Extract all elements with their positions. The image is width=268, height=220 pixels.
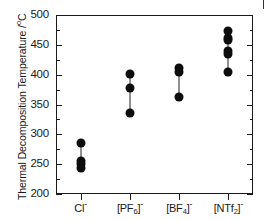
y-tick-right-250 xyxy=(247,164,253,165)
y-tick-minor-225 xyxy=(56,179,60,180)
y-tick-label-400: 400 xyxy=(30,68,49,80)
y-tick-right-350 xyxy=(247,105,253,106)
y-tick-label-300: 300 xyxy=(30,127,49,139)
y-tick-minor-475 xyxy=(56,30,60,31)
x-label-base-2: [BF xyxy=(166,202,183,214)
y-tick-200 xyxy=(56,194,62,195)
y-tick-label-450: 450 xyxy=(30,38,49,50)
data-point xyxy=(175,68,184,77)
x-label-charge-2: - xyxy=(189,199,192,209)
y-tick-500 xyxy=(56,15,62,16)
degree-symbol: o xyxy=(14,21,23,25)
y-tick-label-200: 200 xyxy=(30,187,49,199)
y-axis-unit-c: C xyxy=(16,14,28,21)
data-point xyxy=(175,93,184,102)
x-tick-label-2: [BF4]- xyxy=(166,199,192,214)
x-label-charge-0: - xyxy=(84,199,87,209)
y-tick-400 xyxy=(56,75,62,76)
y-tick-label-500: 500 xyxy=(30,8,49,20)
series-range-line-[PF6] xyxy=(129,74,130,113)
data-point xyxy=(224,67,233,76)
y-tick-right-minor-225 xyxy=(250,179,254,180)
y-axis-title: Thermal Decomposition Temperature /oC xyxy=(14,12,28,202)
y-tick-minor-425 xyxy=(56,60,60,61)
y-tick-right-minor-325 xyxy=(250,119,254,120)
page-edge-mark xyxy=(263,0,264,9)
x-tick-label-0: Cl- xyxy=(74,199,87,214)
y-tick-minor-325 xyxy=(56,119,60,120)
y-tick-right-minor-375 xyxy=(250,90,254,91)
x-tick-label-3: [NTf2]- xyxy=(214,199,243,214)
y-tick-300 xyxy=(56,134,62,135)
data-point xyxy=(224,36,233,45)
x-label-subscript-2: 4 xyxy=(183,207,187,216)
chart-figure: Thermal Decomposition Temperature /oC 20… xyxy=(0,0,268,220)
x-label-base-3: [NTf xyxy=(214,202,234,214)
y-axis-title-text: Thermal Decomposition Temperature / xyxy=(16,25,28,200)
y-tick-label-250: 250 xyxy=(30,157,49,169)
x-label-charge-3: - xyxy=(240,199,243,209)
x-label-charge-1: - xyxy=(140,199,143,209)
y-tick-450 xyxy=(56,45,62,46)
data-point xyxy=(76,139,85,148)
x-label-subscript-1: 6 xyxy=(133,207,137,216)
y-tick-label-350: 350 xyxy=(30,98,49,110)
data-point xyxy=(125,109,134,118)
y-tick-right-300 xyxy=(247,134,253,135)
y-tick-minor-275 xyxy=(56,149,60,150)
y-tick-right-200 xyxy=(247,194,253,195)
data-point xyxy=(125,84,134,93)
y-tick-250 xyxy=(56,164,62,165)
x-label-base-1: [PF xyxy=(117,202,134,214)
y-tick-350 xyxy=(56,105,62,106)
x-tick-label-1: [PF6]- xyxy=(117,199,143,214)
y-tick-right-450 xyxy=(247,45,253,46)
data-point xyxy=(76,163,85,172)
x-label-subscript-3: 2 xyxy=(234,207,238,216)
y-tick-minor-375 xyxy=(56,90,60,91)
data-point xyxy=(224,50,233,59)
data-point xyxy=(125,70,134,79)
y-tick-right-minor-475 xyxy=(250,30,254,31)
y-tick-right-500 xyxy=(247,15,253,16)
y-tick-right-minor-425 xyxy=(250,60,254,61)
y-tick-right-400 xyxy=(247,75,253,76)
y-tick-right-minor-275 xyxy=(250,149,254,150)
x-label-base-0: Cl xyxy=(74,202,84,214)
